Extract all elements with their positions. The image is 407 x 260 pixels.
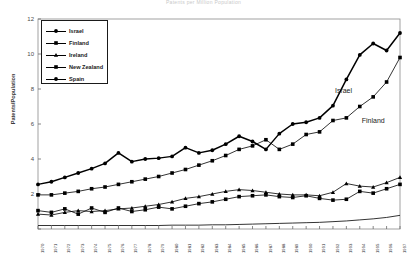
legend-marker-icon	[46, 51, 66, 59]
x-tick-label: 1971	[53, 244, 58, 253]
y-tick-label: 6	[18, 121, 34, 127]
x-tick-label: 1995	[375, 244, 380, 253]
legend-item-label: Israel	[69, 28, 84, 34]
legend-marker-icon	[46, 27, 66, 35]
x-tick-label: 1990	[308, 244, 313, 253]
x-tick-label: 1989	[294, 244, 299, 253]
y-tick-label: 12	[18, 16, 34, 22]
legend-item-label: Finland	[69, 40, 89, 46]
x-axis-ticks: 1970197119721973197419751976197719781979…	[0, 236, 407, 254]
legend-item-israel[interactable]: Israel	[46, 25, 107, 37]
y-tick-label: 10	[18, 51, 34, 57]
x-tick-label: 1972	[66, 244, 71, 253]
x-tick-label: 1980	[174, 244, 179, 253]
legend-item-label: Spain	[69, 76, 84, 82]
x-tick-label: 1976	[120, 244, 125, 253]
x-tick-label: 1996	[388, 244, 393, 253]
chart-legend: IsraelFinlandIrelandNew ZealandSpain	[41, 20, 108, 84]
series-spain	[38, 215, 400, 225]
legend-marker-icon	[46, 39, 66, 47]
annotation-israel: Israel	[335, 87, 352, 94]
series-ireland	[36, 175, 402, 216]
x-tick-label: 1977	[133, 244, 138, 253]
x-tick-label: 1981	[187, 244, 192, 253]
x-tick-label: 1982	[200, 244, 205, 253]
x-tick-label: 1984	[227, 244, 232, 253]
y-tick-label: 2	[18, 191, 34, 197]
legend-marker-icon	[46, 63, 66, 71]
x-tick-label: 1974	[93, 244, 98, 253]
chart-container: Patents per Million Population Patents/P…	[0, 0, 407, 260]
x-tick-label: 1993	[348, 244, 353, 253]
x-tick-label: 1986	[254, 244, 259, 253]
x-tick-label: 1994	[361, 244, 366, 253]
x-tick-label: 1985	[241, 244, 246, 253]
legend-item-ireland[interactable]: Ireland	[46, 49, 107, 61]
x-tick-label: 1991	[321, 244, 326, 253]
legend-item-label: Ireland	[69, 52, 87, 58]
x-tick-label: 1983	[214, 244, 219, 253]
x-tick-label: 1973	[80, 244, 85, 253]
y-axis-label: Patents/Population	[10, 69, 16, 129]
y-tick-label: 8	[18, 86, 34, 92]
legend-item-spain[interactable]: Spain	[46, 73, 107, 85]
x-tick-label: 1987	[268, 244, 273, 253]
x-tick-label: 1979	[160, 244, 165, 253]
y-tick-label: 4	[18, 156, 34, 162]
x-tick-label: 1997	[402, 244, 407, 253]
annotation-finland: Finland	[362, 117, 385, 124]
legend-marker-icon	[46, 75, 66, 83]
x-tick-label: 1992	[335, 244, 340, 253]
legend-item-finland[interactable]: Finland	[46, 37, 107, 49]
x-tick-label: 1975	[107, 244, 112, 253]
legend-item-label: New Zealand	[69, 64, 103, 70]
x-tick-label: 1970	[40, 244, 45, 253]
x-tick-label: 1978	[147, 244, 152, 253]
x-tick-label: 1988	[281, 244, 286, 253]
legend-item-new-zealand[interactable]: New Zealand	[46, 61, 107, 73]
